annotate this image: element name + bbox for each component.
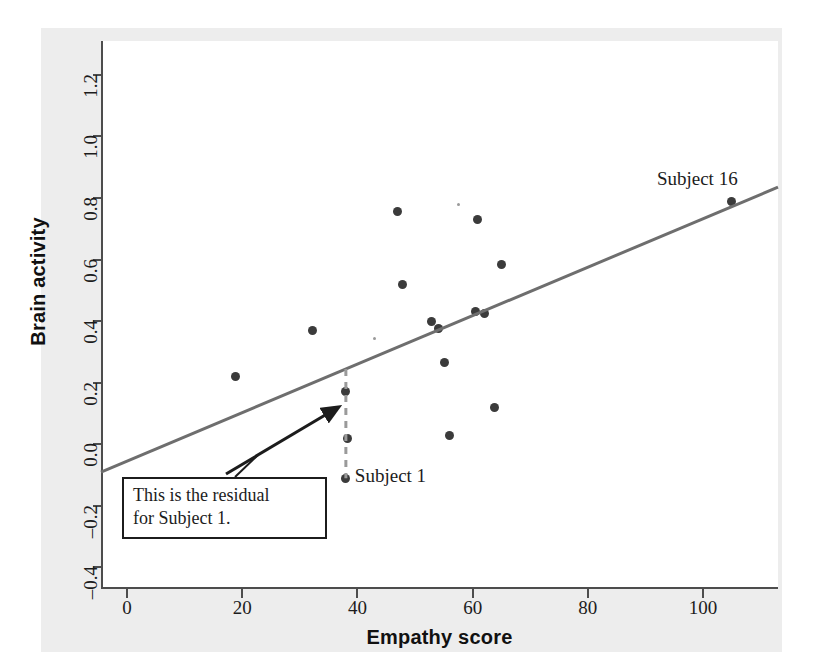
x-tick-label: 0 [97, 597, 157, 619]
label-subject-16: Subject 16 [657, 168, 738, 190]
annotation-line-1: This is the residual [133, 484, 316, 507]
x-tick-label: 20 [212, 597, 272, 619]
x-axis-line [101, 587, 778, 589]
y-axis-title: Brain activity [27, 182, 50, 382]
data-point [490, 403, 499, 412]
x-axis-title: Empathy score [101, 626, 778, 649]
data-point [341, 474, 350, 483]
figure-page: Brain activity Empathy score –0.4–0.20.0… [0, 0, 817, 672]
annotation-callout: This is the residual for Subject 1. [122, 477, 327, 539]
x-tick-label: 40 [327, 597, 387, 619]
data-point [727, 197, 736, 206]
label-subject-1: Subject 1 [355, 465, 426, 487]
data-point [480, 309, 489, 318]
data-point [497, 260, 506, 269]
data-point-faint [373, 337, 376, 340]
y-tick-label: 1.2 [80, 74, 102, 204]
data-point [308, 326, 317, 335]
data-point [398, 280, 407, 289]
data-point [343, 434, 352, 443]
annotation-line-2: for Subject 1. [133, 507, 316, 530]
data-point [434, 324, 443, 333]
data-point-faint [457, 203, 460, 206]
data-point [427, 317, 436, 326]
data-point [231, 372, 240, 381]
x-tick-label: 80 [558, 597, 618, 619]
data-point [473, 215, 482, 224]
data-point [445, 431, 454, 440]
x-tick-label: 100 [673, 597, 733, 619]
x-tick-label: 60 [443, 597, 503, 619]
